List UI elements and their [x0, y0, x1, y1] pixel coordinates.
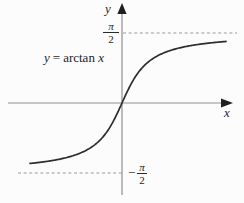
y-axis-arrowhead — [117, 3, 126, 14]
pi-over-2-fraction: π 2 — [137, 161, 147, 186]
equation-function: arctan — [63, 50, 95, 65]
x-axis-label: x — [224, 106, 230, 119]
arctan-figure: y x π 2 − π 2 y=arctan x — [0, 0, 244, 203]
two-denominator: 2 — [137, 174, 147, 186]
pi-over-2-label: π 2 — [103, 20, 119, 45]
two-denominator: 2 — [103, 33, 119, 45]
equation-label: y=arctan x — [44, 50, 104, 66]
equals-sign: = — [53, 50, 60, 65]
pi-numerator: π — [137, 161, 147, 174]
y-axis-label: y — [105, 2, 111, 15]
equation-variable: x — [98, 50, 104, 65]
pi-numerator: π — [103, 20, 119, 33]
arctan-plot — [0, 0, 244, 203]
equation-lhs: y — [44, 50, 50, 65]
neg-pi-over-2-label: − π 2 — [128, 159, 147, 187]
minus-sign: − — [128, 165, 135, 181]
